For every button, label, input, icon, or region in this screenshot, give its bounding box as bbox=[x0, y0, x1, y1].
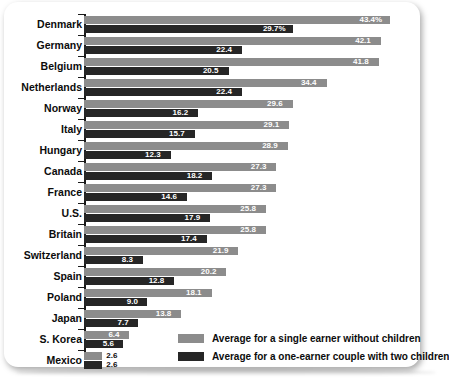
category-label: Netherlands bbox=[0, 78, 82, 97]
bar-row: Switzerland21.98.3 bbox=[0, 245, 449, 266]
category-label: Norway bbox=[0, 99, 82, 118]
bar-value-label: 20.2 bbox=[201, 268, 217, 276]
bar-row: Germany42.122.4 bbox=[0, 35, 449, 56]
category-label: France bbox=[0, 183, 82, 202]
bar-value-label: 18.1 bbox=[186, 289, 202, 297]
bar-light bbox=[84, 163, 276, 171]
category-label: Switzerland bbox=[0, 246, 82, 265]
category-label: Britain bbox=[0, 225, 82, 244]
bar-row: Denmark43.4%29.7% bbox=[0, 14, 449, 35]
legend-label: Average for a single earner without chil… bbox=[212, 332, 421, 345]
bar-row: France27.314.6 bbox=[0, 182, 449, 203]
bar-light bbox=[84, 226, 266, 234]
bar-value-label: 25.8 bbox=[240, 226, 256, 234]
bar-row: U.S.25.817.9 bbox=[0, 203, 449, 224]
bar-light bbox=[84, 352, 102, 360]
bar-dark bbox=[84, 319, 138, 327]
bar-light bbox=[84, 121, 289, 129]
bar-value-label: 6.4 bbox=[108, 331, 119, 339]
category-label: Belgium bbox=[0, 57, 82, 76]
category-label: Spain bbox=[0, 267, 82, 286]
bar-value-label: 29.6 bbox=[267, 100, 283, 108]
bar-value-label: 22.4 bbox=[216, 46, 232, 54]
bar-value-label: 5.6 bbox=[103, 340, 114, 348]
bar-row: Norway29.616.2 bbox=[0, 98, 449, 119]
category-label: S. Korea bbox=[0, 330, 82, 349]
bar-row: Britain25.817.4 bbox=[0, 224, 449, 245]
bar-row: Canada27.318.2 bbox=[0, 161, 449, 182]
bar-value-label: 18.2 bbox=[187, 172, 203, 180]
bar-row: Netherlands34.422.4 bbox=[0, 77, 449, 98]
bar-value-label: 21.9 bbox=[213, 247, 229, 255]
bar-light bbox=[84, 331, 129, 339]
category-label: Canada bbox=[0, 162, 82, 181]
bar-value-label: 12.8 bbox=[149, 277, 165, 285]
bar-dark bbox=[84, 361, 102, 369]
bar-value-label: 29.7% bbox=[263, 25, 286, 33]
bar-row: Spain20.212.8 bbox=[0, 266, 449, 287]
bar-row: Belgium41.820.5 bbox=[0, 56, 449, 77]
bar-light bbox=[84, 16, 390, 24]
category-label: Japan bbox=[0, 309, 82, 328]
category-label: Denmark bbox=[0, 15, 82, 34]
bar-light bbox=[84, 79, 327, 87]
bar-light bbox=[84, 37, 381, 45]
bar-value-label: 9.0 bbox=[127, 298, 138, 306]
bar-value-label: 20.5 bbox=[203, 67, 219, 75]
bar-value-label: 13.8 bbox=[156, 310, 172, 318]
category-label: U.S. bbox=[0, 204, 82, 223]
category-label: Mexico bbox=[0, 351, 82, 370]
bar-value-label: 17.9 bbox=[185, 214, 201, 222]
bar-light bbox=[84, 100, 293, 108]
legend-swatch-light bbox=[178, 334, 204, 343]
bar-dark bbox=[84, 256, 143, 264]
bar-value-label: 25.8 bbox=[240, 205, 256, 213]
bar-value-label: 7.7 bbox=[118, 319, 129, 327]
bar-value-label: 28.9 bbox=[262, 142, 278, 150]
bar-value-label: 14.6 bbox=[161, 193, 177, 201]
bar-row: Hungary28.912.3 bbox=[0, 140, 449, 161]
category-label: Italy bbox=[0, 120, 82, 139]
bar-value-label: 16.2 bbox=[173, 109, 189, 117]
bar-value-label: 42.1 bbox=[355, 37, 371, 45]
legend-label: Average for a one-earner couple with two… bbox=[212, 350, 449, 363]
legend-swatch-dark bbox=[178, 352, 204, 361]
bar-chart-plot: Denmark43.4%29.7%Germany42.122.4Belgium4… bbox=[0, 0, 449, 387]
bar-row: Italy29.115.7 bbox=[0, 119, 449, 140]
bar-value-label: 12.3 bbox=[145, 151, 161, 159]
bar-light bbox=[84, 58, 379, 66]
bar-value-label: 17.4 bbox=[181, 235, 197, 243]
bar-row: Japan13.87.7 bbox=[0, 308, 449, 329]
category-label: Hungary bbox=[0, 141, 82, 160]
bar-value-label: 27.3 bbox=[251, 163, 267, 171]
bar-light bbox=[84, 205, 266, 213]
bar-value-label: 27.3 bbox=[251, 184, 267, 192]
bar-value-label: 43.4% bbox=[359, 16, 382, 24]
category-label: Poland bbox=[0, 288, 82, 307]
bar-value-label: 2.6 bbox=[106, 352, 117, 360]
bar-row: Poland18.19.0 bbox=[0, 287, 449, 308]
bar-value-label: 29.1 bbox=[264, 121, 280, 129]
bar-value-label: 41.8 bbox=[353, 58, 369, 66]
category-label: Germany bbox=[0, 36, 82, 55]
bar-value-label: 2.6 bbox=[106, 361, 117, 369]
bar-light bbox=[84, 184, 276, 192]
bar-value-label: 15.7 bbox=[169, 130, 185, 138]
bar-value-label: 22.4 bbox=[216, 88, 232, 96]
bar-light bbox=[84, 142, 288, 150]
bar-value-label: 34.4 bbox=[301, 79, 317, 87]
bar-value-label: 8.3 bbox=[122, 256, 133, 264]
